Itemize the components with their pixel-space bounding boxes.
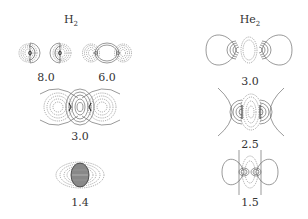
he2-column-title: He2 xyxy=(240,13,261,28)
he2-contour-3-0 xyxy=(204,30,294,70)
h2-label-1-4: 1.4 xyxy=(71,196,89,209)
he2-label-1-5: 1.5 xyxy=(241,196,259,209)
h2-contour-6-0 xyxy=(82,40,132,66)
h2-label-3-0: 3.0 xyxy=(71,130,89,143)
h2-column-title: H2 xyxy=(64,13,78,28)
h2-contour-1-4 xyxy=(55,160,105,190)
he2-contour-1-5 xyxy=(220,150,280,195)
h2-label-6-0: 6.0 xyxy=(98,71,116,84)
h2-contour-3-0 xyxy=(38,88,122,126)
he2-contour-2-5 xyxy=(216,88,286,138)
h2-label-8-0: 8.0 xyxy=(37,71,55,84)
h2-contour-8-0 xyxy=(18,40,78,66)
he2-label-3-0: 3.0 xyxy=(241,75,259,88)
